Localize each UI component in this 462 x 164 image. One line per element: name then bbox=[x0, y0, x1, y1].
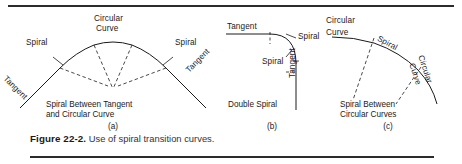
panel-c-caption-line2: Circular Curves bbox=[340, 110, 396, 120]
figure-container: Circular Curve Spiral Spiral Tangent Tan… bbox=[0, 0, 462, 164]
panel-a-spiral-between-tangent-and-circular-curve: Circular Curve Spiral Spiral Tangent Tan… bbox=[6, 12, 220, 130]
bottom-horizontal-rule bbox=[30, 156, 434, 158]
label-circular-left-line1: Circular bbox=[326, 16, 355, 26]
radius-dashed-left-inner bbox=[94, 45, 113, 89]
panel-a-letter: (a) bbox=[6, 122, 220, 132]
label-spiral-upper: Spiral bbox=[298, 32, 320, 42]
spiral-curve-right bbox=[132, 45, 166, 68]
label-spiral-left: Spiral bbox=[26, 38, 48, 48]
panel-b-letter: (b) bbox=[222, 122, 322, 132]
figure-number: Figure 22-2. bbox=[30, 133, 86, 144]
leader-line-spiral-upper bbox=[286, 34, 296, 38]
radius-dashed-right-outer bbox=[118, 68, 166, 86]
radius-dashed-left bbox=[353, 38, 374, 100]
label-spiral-lower: Spiral bbox=[262, 57, 284, 67]
panel-b-caption: Double Spiral bbox=[228, 100, 277, 110]
panel-b-caption-line1: Double Spiral bbox=[228, 100, 277, 110]
top-horizontal-rule bbox=[8, 5, 454, 7]
circular-arc-center bbox=[94, 42, 132, 45]
panel-c-letter: (c) bbox=[318, 122, 458, 132]
figure-caption: Figure 22-2. Use of spiral transition cu… bbox=[30, 133, 214, 145]
tangent-line-right bbox=[166, 68, 206, 108]
label-circular-curve-line2: Curve bbox=[96, 24, 118, 34]
label-tangent-vertical: Tangent bbox=[288, 48, 298, 78]
panel-a-caption-line1: Spiral Between Tangent bbox=[46, 100, 132, 110]
panel-c-spiral-between-circular-curves: Circular Curve Spiral Circular Curve Spi… bbox=[318, 12, 458, 130]
radius-dashed-left-outer bbox=[60, 68, 108, 86]
label-circular-curve-line1: Circular bbox=[94, 14, 123, 24]
leader-line-spiral-right bbox=[163, 57, 173, 65]
label-circular-left-line2: Curve bbox=[326, 28, 348, 38]
panel-c-caption: Spiral Between Circular Curves bbox=[340, 100, 396, 120]
panel-a-caption: Spiral Between Tangent and Circular Curv… bbox=[46, 100, 132, 120]
spiral-curve-left bbox=[60, 45, 94, 68]
circular-curve-left bbox=[332, 37, 374, 43]
figure-caption-text: Use of spiral transition curves. bbox=[89, 133, 215, 144]
panel-b-double-spiral: Tangent Spiral Spiral Tangent Double Spi… bbox=[222, 12, 322, 130]
panel-c-caption-line1: Spiral Between bbox=[340, 100, 396, 110]
radius-dashed-right-inner bbox=[113, 45, 132, 89]
panel-a-caption-line2: and Circular Curve bbox=[46, 110, 132, 120]
label-spiral-right: Spiral bbox=[175, 38, 197, 48]
leader-line-spiral-left bbox=[53, 57, 63, 65]
label-tangent-horizontal: Tangent bbox=[227, 22, 257, 32]
